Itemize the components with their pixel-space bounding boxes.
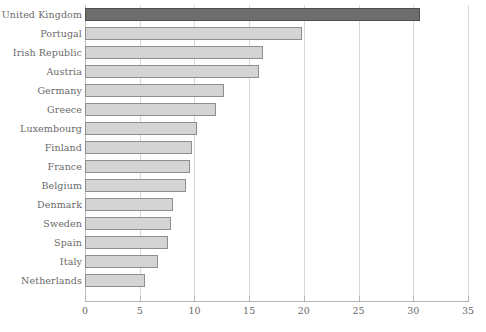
x-tick-label: 5 [137,305,143,317]
category-axis: United KingdomPortugalIrish RepublicAust… [0,5,82,301]
category-label: Germany [0,81,82,100]
bar [85,160,190,173]
category-label: Denmark [0,195,82,214]
x-tick [468,296,469,302]
category-label: Greece [0,100,82,119]
bar [85,65,259,78]
bar-row [85,233,468,252]
x-tick [413,296,414,302]
bar [85,84,224,97]
bar-row [85,157,468,176]
bar-chart: United KingdomPortugalIrish RepublicAust… [0,0,486,332]
x-tick [304,296,305,302]
bar-row [85,81,468,100]
bar [85,274,145,287]
category-label: Italy [0,252,82,271]
bar-row [85,176,468,195]
category-label: France [0,157,82,176]
x-tick-label: 10 [188,305,200,317]
x-tick-label: 35 [462,305,474,317]
x-tick [359,296,360,302]
bar-row [85,24,468,43]
plot-area [85,5,468,301]
category-label: Irish Republic [0,43,82,62]
bar-row [85,252,468,271]
bar [85,141,192,154]
x-tick-label: 15 [243,305,255,317]
bar [85,8,420,21]
x-tick-label: 25 [353,305,365,317]
x-tick [85,296,86,302]
bar [85,236,168,249]
bar-row [85,271,468,290]
bar-row [85,43,468,62]
x-tick-label: 30 [407,305,419,317]
x-tick-label: 20 [298,305,310,317]
category-label: Finland [0,138,82,157]
category-label: Portugal [0,24,82,43]
category-label: Sweden [0,214,82,233]
bar [85,27,302,40]
bar [85,198,173,211]
bar-row [85,119,468,138]
bar-row [85,100,468,119]
bar-row [85,138,468,157]
x-tick [140,296,141,302]
bar [85,179,186,192]
x-tick [194,296,195,302]
category-label: Netherlands [0,271,82,290]
category-label: Spain [0,233,82,252]
gridline-35 [468,5,469,301]
category-label: Luxembourg [0,119,82,138]
x-axis-line [85,301,469,302]
bar-row [85,5,468,24]
bar [85,217,171,230]
bar [85,46,263,59]
bar-row [85,214,468,233]
bar-row [85,195,468,214]
bar [85,122,197,135]
bar-row [85,62,468,81]
x-tick-label: 0 [82,305,88,317]
category-label: Belgium [0,176,82,195]
x-tick [249,296,250,302]
category-label: United Kingdom [0,5,82,24]
bar [85,103,216,116]
category-label: Austria [0,62,82,81]
bar [85,255,158,268]
